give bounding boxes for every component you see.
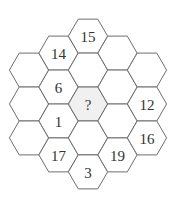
cell-label: 16 [140,131,156,147]
hex-grid: 14611715?3191216 [0,0,174,204]
cell-label: 1 [55,114,63,130]
cell-label: 14 [51,46,67,62]
cell-label: 6 [55,80,63,96]
cell-label: 12 [140,97,155,113]
cell-label: 17 [51,148,67,164]
cell-label: 15 [81,29,96,45]
cell-label: 3 [84,165,92,181]
cell-label: ? [85,97,92,113]
cell-label: 19 [110,148,125,164]
